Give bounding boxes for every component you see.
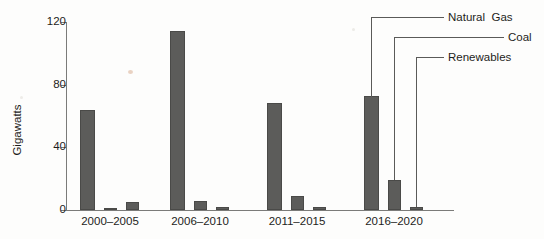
bar-2016-2020-natural-gas — [364, 96, 379, 210]
x-tick-label-2000-2005: 2000–2005 — [81, 215, 139, 227]
x-tick-label-2016-2020: 2016–2020 — [365, 215, 423, 227]
callout-label-renewables: Renewables — [448, 52, 511, 64]
bar-2011-2015-renewables — [313, 207, 326, 210]
callout-label-natural-gas: Natural Gas — [448, 12, 513, 24]
leader-line-renewables-vertical — [416, 57, 417, 207]
bar-2016-2020-coal — [388, 180, 401, 210]
y-tick-label-40: 40 — [10, 142, 66, 154]
y-axis-line — [66, 22, 67, 211]
x-tick-label-2006-2010: 2006–2010 — [171, 215, 229, 227]
leader-line-renewables-horizontal — [416, 57, 444, 58]
leader-line-natural-gas-vertical — [371, 17, 372, 97]
callout-label-coal: Coal — [508, 32, 532, 44]
x-axis-line — [66, 210, 454, 211]
bar-2016-2020-renewables — [410, 207, 423, 210]
bar-2011-2015-coal — [291, 196, 304, 210]
scan-speckle — [352, 28, 355, 31]
bar-2000-2005-renewables — [126, 202, 139, 210]
leader-line-coal-horizontal — [394, 37, 504, 38]
bar-2011-2015-natural-gas — [267, 103, 282, 210]
leader-line-natural-gas-horizontal — [371, 17, 444, 18]
y-tick-label-120: 120 — [10, 16, 66, 28]
bar-2000-2005-coal — [104, 208, 117, 210]
bar-2006-2010-natural-gas — [170, 31, 185, 210]
bar-2000-2005-natural-gas — [80, 110, 95, 210]
y-tick-label-80: 80 — [10, 79, 66, 91]
bar-2006-2010-coal — [194, 201, 207, 210]
leader-line-coal-vertical — [394, 37, 395, 180]
bar-2006-2010-renewables — [216, 207, 229, 210]
y-tick-label-0: 0 — [10, 204, 66, 216]
scan-speckle — [128, 70, 133, 74]
chart-figure: Gigawatts 120 80 40 0 2000–2005 2006–201… — [0, 0, 544, 239]
x-tick-label-2011-2015: 2011–2015 — [269, 215, 326, 227]
y-axis-title: Gigawatts — [11, 90, 23, 170]
plot-area: Gigawatts 120 80 40 0 2000–2005 2006–201… — [0, 0, 544, 239]
